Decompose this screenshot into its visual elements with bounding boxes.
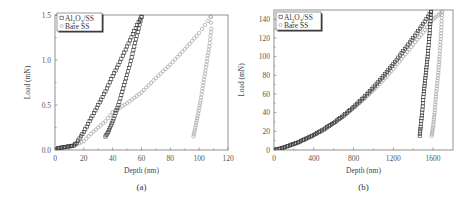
x-tick-label: 60 <box>138 154 146 163</box>
data-point <box>130 56 133 59</box>
data-point <box>120 57 123 60</box>
data-point <box>110 78 113 81</box>
data-point <box>127 66 130 69</box>
data-point <box>126 70 129 73</box>
data-point <box>209 15 212 18</box>
figure: 0204060801001200.00.51.01.5Depth (nm)Loa… <box>0 0 475 205</box>
data-point <box>131 52 134 55</box>
y-axis-label: Load (mN) <box>23 65 32 99</box>
data-point <box>135 94 138 97</box>
data-point <box>192 135 195 138</box>
panel-label: (b) <box>358 182 369 192</box>
data-point <box>124 48 127 51</box>
data-point <box>203 23 206 26</box>
y-tick-label: 40 <box>263 108 271 117</box>
data-point <box>128 63 131 66</box>
data-point <box>129 59 132 62</box>
data-point <box>124 80 127 83</box>
data-point <box>127 42 130 45</box>
series-al2o3-ss <box>53 15 143 151</box>
panel-label: (a) <box>137 182 147 192</box>
data-point <box>105 87 108 90</box>
data-point <box>210 27 213 30</box>
x-tick-label: 100 <box>194 154 206 163</box>
x-axis-label: Depth (nm) <box>346 166 381 175</box>
data-point <box>134 41 137 44</box>
x-tick-label: 1600 <box>426 154 441 163</box>
data-point <box>132 49 135 52</box>
x-tick-label: 20 <box>80 154 88 163</box>
legend: Al2O3/SSBare SS <box>276 12 323 32</box>
y-tick-label: 1.0 <box>42 56 52 65</box>
data-point <box>386 74 389 77</box>
y-tick-label: 100 <box>259 52 271 61</box>
data-point <box>206 19 209 22</box>
data-point <box>104 120 107 123</box>
data-point <box>108 128 111 131</box>
data-point <box>421 108 424 111</box>
data-point <box>422 99 425 102</box>
data-point <box>109 124 112 127</box>
chart-panel-b: 040080012001600020406080100120140Depth (… <box>237 10 453 192</box>
data-point <box>107 84 110 87</box>
data-point <box>135 34 138 37</box>
data-point <box>106 117 109 120</box>
data-point <box>131 33 134 36</box>
x-axis-label: Depth (nm) <box>124 166 159 175</box>
data-point <box>137 93 140 96</box>
data-point <box>208 38 211 41</box>
legend-label-bare-ss: Bare SS <box>284 21 308 30</box>
data-point <box>125 77 128 80</box>
x-tick-label: 80 <box>167 154 175 163</box>
data-point <box>200 27 203 30</box>
data-point <box>128 39 131 42</box>
data-point <box>108 126 111 129</box>
data-point <box>421 105 424 108</box>
data-point <box>130 98 133 101</box>
data-point <box>128 100 131 103</box>
x-tick-label: 40 <box>109 154 117 163</box>
y-tick-label: 0.0 <box>42 146 52 155</box>
data-point <box>123 84 126 87</box>
chart-panel-a: 0204060801001200.00.51.01.5Depth (nm)Loa… <box>23 11 234 193</box>
data-point <box>134 38 137 41</box>
y-axis-label: Load (mN) <box>237 63 246 97</box>
data-point <box>109 114 112 117</box>
data-point <box>209 30 212 33</box>
data-point <box>133 45 136 48</box>
y-tick-label: 80 <box>263 71 271 80</box>
data-point <box>125 45 128 48</box>
y-tick-label: 1.5 <box>42 11 52 20</box>
data-point <box>208 41 211 44</box>
data-point <box>122 87 125 90</box>
x-tick-label: 120 <box>222 154 234 163</box>
data-point <box>197 31 200 34</box>
legend: Al2O3/SSBare SS <box>57 13 104 33</box>
legend-label-bare-ss: Bare SS <box>65 22 89 31</box>
data-point <box>421 102 424 105</box>
data-point <box>133 96 136 99</box>
data-point <box>428 29 431 32</box>
data-point <box>110 122 113 125</box>
data-point <box>136 31 139 34</box>
data-point <box>118 100 121 103</box>
x-tick-label: 800 <box>348 154 360 163</box>
y-tick-label: 0.5 <box>42 101 52 110</box>
x-tick-label: 400 <box>308 154 320 163</box>
y-tick-label: 20 <box>263 127 271 136</box>
data-point <box>120 94 123 97</box>
data-point <box>422 96 425 99</box>
y-tick-label: 140 <box>259 15 271 24</box>
data-point <box>209 34 212 37</box>
y-tick-label: 120 <box>259 34 271 43</box>
data-point <box>209 21 212 24</box>
data-point <box>121 54 124 57</box>
data-point <box>108 81 111 84</box>
x-tick-label: 0 <box>53 154 57 163</box>
x-tick-label: 1200 <box>386 154 401 163</box>
data-point <box>130 36 133 39</box>
y-tick-label: 0 <box>266 146 270 155</box>
data-point <box>119 97 122 100</box>
data-point <box>123 51 126 54</box>
y-tick-label: 60 <box>263 90 271 99</box>
